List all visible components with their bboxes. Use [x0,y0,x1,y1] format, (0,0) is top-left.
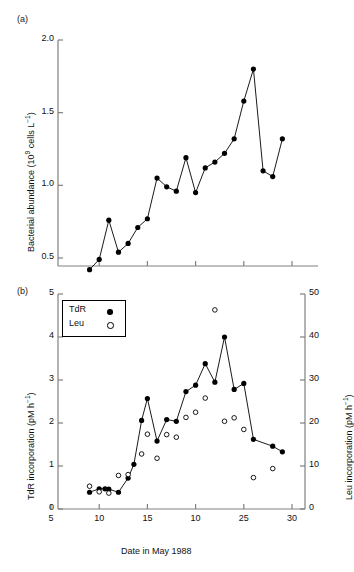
panel-b-tdr-data-point [139,418,144,423]
panel-b-right-ytick-20: 20 [309,416,319,426]
panel-b-legend: TdR Leu [62,300,126,337]
panel-b-xtick-4: 25 [232,513,256,523]
panel-a-data-point [126,241,131,246]
panel-b-right-ytick-30: 30 [309,373,319,383]
panel-b-tdr-data-point [222,334,227,339]
panel-a-data-point [154,175,159,180]
panel-b-leu-data-point [232,416,237,421]
panel-a-data-point [183,155,188,160]
panel-b-tdr-data-point [203,361,208,366]
panel-b-leu-data-point [251,475,256,480]
panel-b-tdr-data-point [164,417,169,422]
panel-b-xtick-5: 30 [280,513,304,523]
panel-b-leu-data-point [97,490,102,495]
panel-a-data-point [97,257,102,262]
panel-a-data-point [241,98,246,103]
panel-a-data-point [164,184,169,189]
panel-a-ytick-0.5: 0.5 [22,251,54,261]
panel-b-tdr-data-point [87,490,92,495]
panel-b-xtick-3: 10 [184,513,208,523]
panel-a-data-point [280,136,285,141]
panel-b-tdr-data-point [145,396,150,401]
panel-b-leu-data-point [116,473,121,478]
panel-b-left-ytick-4: 4 [32,330,54,340]
panel-b-leu-data-point [145,432,150,437]
panel-a-data-point [203,165,208,170]
panel-a-series [87,66,285,272]
figure-container: (a) (b) Bacterial abundance (109 cells L… [0,0,354,572]
panel-a-data-point [174,189,179,194]
panel-b-tdr-series [87,334,285,494]
plot-svg [0,0,354,572]
panel-a-data-point [135,225,140,230]
panel-b-xtick-2: 15 [135,513,159,523]
panel-b-left-ytick-2: 2 [32,416,54,426]
panel-a-data-point [232,136,237,141]
panel-a-ytick-1.5: 1.5 [22,106,54,116]
panel-b-tdr-data-point [270,444,275,449]
panel-b-leu-data-point [222,419,227,424]
panel-b-tdr-data-point [183,389,188,394]
panel-b-leu-data-point [126,472,131,477]
legend-marker-leu-open-circle-icon [107,322,114,329]
panel-b-leu-data-point [107,491,112,496]
panel-b-tdr-data-point [232,387,237,392]
panel-b-tdr-data-point [251,437,256,442]
panel-b-right-ytick-50: 50 [309,287,319,297]
panel-b-tdr-data-point [174,419,179,424]
panel-a-data-point [270,174,275,179]
panel-b-leu-data-point [139,452,144,457]
panel-a-data-point [87,267,92,272]
panel-b-leu-data-point [270,466,275,471]
panel-b-leu-data-point [155,456,160,461]
panel-a-data-point [193,190,198,195]
panel-a-data-point [251,66,256,71]
panel-b-leu-data-point [242,427,247,432]
panel-b-right-ytick-0: 0 [309,502,314,512]
panel-b-tdr-data-point [116,490,121,495]
legend-entry-tdr-label: TdR [69,304,86,314]
panel-b-leu-data-point [193,410,198,415]
panel-a-ytick-1.0: 1.0 [22,178,54,188]
panel-b-left-ytick-1: 1 [32,459,54,469]
panel-b-tdr-data-point [154,438,159,443]
panel-b-xtick-0: 5 [39,513,63,523]
panel-b-tdr-data-point [212,380,217,385]
panel-b-leu-data-point [87,484,92,489]
panel-b-tdr-data-point [193,383,198,388]
panel-b-left-ytick-0: 0 [32,502,54,512]
panel-b-leu-data-point [174,435,179,440]
panel-b-right-ytick-10: 10 [309,459,319,469]
panel-b-xtick-1: 10 [87,513,111,523]
legend-marker-tdr-filled-circle-icon [107,309,113,315]
panel-b-leu-data-point [213,308,218,313]
panel-b-tdr-data-point [241,381,246,386]
panel-b-leu-data-point [164,432,169,437]
panel-a-data-point [260,168,265,173]
panel-a-data-point [145,216,150,221]
panel-b-tdr-data-point [131,462,136,467]
panel-b-tdr-data-point [280,449,285,454]
panel-b-right-ytick-40: 40 [309,330,319,340]
panel-b-leu-data-point [184,415,189,420]
panel-a-data-point [106,218,111,223]
panel-a-data-point [212,159,217,164]
panel-b-left-ytick-3: 3 [32,373,54,383]
panel-a-data-point [222,151,227,156]
panel-b-leu-data-point [203,396,208,401]
panel-b-left-ytick-5: 5 [32,287,54,297]
panel-a-ytick-2.0: 2.0 [22,33,54,43]
legend-entry-leu-label: Leu [69,318,84,328]
panel-a-data-point [116,250,121,255]
